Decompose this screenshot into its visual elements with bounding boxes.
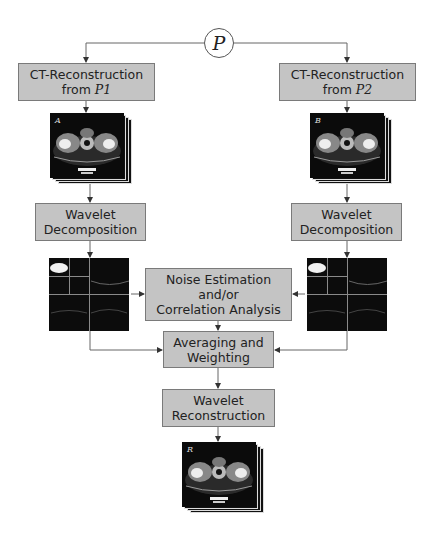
- wavelet-coefficients-left-image: [49, 258, 129, 331]
- ct-slice-image: R: [182, 442, 256, 507]
- line-prefix: from: [323, 82, 356, 97]
- ct-image-stack-r: R: [182, 442, 264, 514]
- wavelet-coefficients-right-image: [307, 258, 387, 331]
- noise-estimation-box: Noise Estimation and/or Correlation Anal…: [145, 268, 292, 321]
- averaging-weighting-box: Averaging and Weighting: [163, 331, 274, 368]
- box-line-2: Decomposition: [44, 222, 138, 237]
- ct-slice-image: B: [310, 113, 384, 178]
- wavelet-reconstruction-box: Wavelet Reconstruction: [162, 389, 275, 427]
- box-line-1: Wavelet: [65, 207, 115, 222]
- ct-slice-image: A: [50, 113, 124, 178]
- ct-anatomy-graphic: [182, 442, 256, 507]
- ct-image-label: B: [315, 116, 321, 125]
- variable-p1: P1: [95, 82, 111, 97]
- wavelet-decomposition-right-box: Wavelet Decomposition: [291, 203, 402, 241]
- ct-image-stack-a: A: [50, 113, 132, 185]
- box-line-1: CT-Reconstruction: [291, 67, 404, 82]
- ct-anatomy-graphic: [50, 113, 124, 178]
- ct-image-label: A: [55, 116, 61, 125]
- box-line-2: from P1: [62, 82, 111, 97]
- ct-image-label: R: [187, 445, 193, 454]
- ct-reconstruction-p1-box: CT-Reconstruction from P1: [18, 63, 155, 101]
- source-node-p: P: [204, 28, 234, 58]
- box-line-2: Reconstruction: [172, 408, 266, 423]
- subband-divider: [327, 258, 328, 294]
- box-line-1: Averaging and: [173, 335, 263, 350]
- box-line-1: Wavelet: [193, 393, 243, 408]
- ct-image-stack-b: B: [310, 113, 392, 185]
- wavelet-decomposition-left-box: Wavelet Decomposition: [35, 203, 146, 241]
- box-line-1: Wavelet: [321, 207, 371, 222]
- box-line-3: Correlation Analysis: [156, 302, 280, 317]
- ct-anatomy-graphic: [310, 113, 384, 178]
- source-node-label: P: [213, 32, 226, 54]
- box-line-2: Weighting: [187, 350, 250, 365]
- line-prefix: from: [62, 82, 95, 97]
- box-line-2: and/or: [198, 287, 239, 302]
- ct-reconstruction-p2-box: CT-Reconstruction from P2: [279, 63, 416, 101]
- box-line-1: CT-Reconstruction: [30, 67, 143, 82]
- box-line-1: Noise Estimation: [166, 272, 271, 287]
- subband-divider: [89, 258, 90, 331]
- subband-divider: [69, 258, 70, 294]
- variable-p2: P2: [356, 82, 372, 97]
- box-line-2: Decomposition: [300, 222, 394, 237]
- subband-divider: [347, 258, 348, 331]
- box-line-2: from P2: [323, 82, 372, 97]
